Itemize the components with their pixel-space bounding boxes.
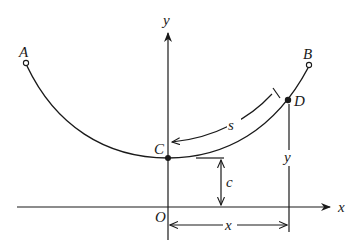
point-d-marker [285, 97, 291, 103]
y-dimension-label: y [282, 149, 291, 165]
point-d-label: D [293, 93, 305, 109]
x-axis-label: x [337, 199, 345, 215]
point-a-marker [23, 60, 28, 65]
c-dimension-label: c [226, 174, 233, 190]
x-dimension-label: x [224, 217, 232, 233]
arc-length-label: s [228, 117, 234, 133]
point-c-marker [165, 155, 171, 161]
point-a-label: A [18, 44, 29, 60]
y-axis-label: y [161, 12, 170, 28]
origin-label: O [155, 209, 166, 225]
point-b-label: B [303, 46, 312, 62]
point-b-marker [306, 62, 311, 67]
arc-length-tick [273, 88, 280, 98]
arc-length-arrow [172, 94, 272, 142]
catenary-diagram: x y O A B C D s y c x [0, 0, 360, 250]
point-c-label: C [154, 141, 165, 157]
